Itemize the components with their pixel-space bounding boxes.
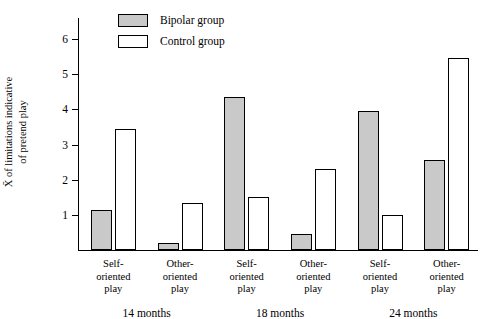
bar-control xyxy=(448,58,469,250)
y-axis-title-line2: of pretend play xyxy=(17,100,28,164)
bar-control xyxy=(248,197,269,250)
y-tick: 6 xyxy=(72,39,78,40)
y-tick: 3 xyxy=(72,145,78,146)
bar-control xyxy=(382,215,403,250)
y-tick: 4 xyxy=(72,109,78,110)
x-category-label: Other-orientedplay xyxy=(280,258,346,296)
y-tick-label: 4 xyxy=(62,101,68,117)
x-group-label: 14 months xyxy=(87,307,207,319)
y-tick: 1 xyxy=(72,215,78,216)
bar-bipolar xyxy=(358,111,379,250)
bar-bipolar xyxy=(91,210,112,250)
x-category-label: Self-orientedplay xyxy=(347,258,413,296)
x-category-label: Other-orientedplay xyxy=(147,258,213,296)
bar-bipolar xyxy=(224,97,245,250)
y-tick-label: 6 xyxy=(62,31,68,47)
y-tick-label: 3 xyxy=(62,137,68,153)
bar-bipolar xyxy=(424,160,445,250)
bar-bipolar xyxy=(158,243,179,250)
y-tick-label: 2 xyxy=(62,172,68,188)
y-tick: 2 xyxy=(72,180,78,181)
y-tick-label: 1 xyxy=(62,207,68,223)
y-axis-line xyxy=(78,18,79,250)
x-axis-line xyxy=(78,250,478,251)
x-group-label: 18 months xyxy=(220,307,340,319)
x-group-label: 24 months xyxy=(353,307,473,319)
bar-control xyxy=(182,203,203,250)
bar-control xyxy=(315,169,336,250)
y-tick-label: 5 xyxy=(62,66,68,82)
x-category-label: Other-orientedplay xyxy=(414,258,480,296)
x-category-label: Self-orientedplay xyxy=(214,258,280,296)
x-category-label: Self-orientedplay xyxy=(80,258,146,296)
bar-control xyxy=(115,129,136,250)
y-tick: 5 xyxy=(72,74,78,75)
plot-area: 123456 xyxy=(78,18,478,250)
bar-bipolar xyxy=(291,234,312,250)
y-axis-title-line1: X̄ of limitations indicative xyxy=(3,77,14,188)
